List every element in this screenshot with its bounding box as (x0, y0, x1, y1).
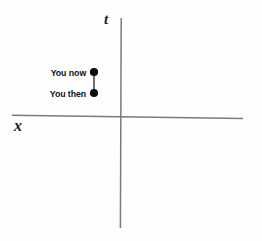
time-axis-label: t (104, 12, 108, 27)
diagram-canvas (0, 0, 262, 241)
spacetime-diagram: t x You now You then (0, 0, 262, 241)
event-label-you-now: You now (50, 68, 86, 78)
time-axis-line (120, 18, 121, 228)
space-axis-line (12, 115, 243, 118)
event-dot-you-then (90, 89, 98, 97)
event-dot-you-now (90, 68, 98, 76)
event-label-you-then: You then (50, 89, 86, 99)
space-axis-label: x (14, 118, 22, 134)
